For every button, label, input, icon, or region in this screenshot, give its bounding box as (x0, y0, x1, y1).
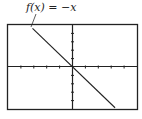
function-line (33, 28, 116, 107)
graph-screen (0, 0, 142, 119)
